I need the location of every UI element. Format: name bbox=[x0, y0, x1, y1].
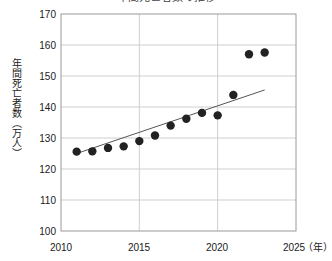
plot-border bbox=[61, 14, 296, 231]
data-point bbox=[229, 91, 237, 99]
data-point bbox=[119, 142, 127, 150]
gridlines bbox=[61, 14, 296, 231]
data-point bbox=[104, 144, 112, 152]
data-point bbox=[245, 50, 253, 58]
plot-frame bbox=[61, 14, 296, 231]
data-point bbox=[182, 115, 190, 123]
data-point bbox=[151, 131, 159, 139]
data-point bbox=[135, 137, 143, 145]
data-points bbox=[72, 48, 268, 156]
chart-container: 年間死亡者数の推移 年間死亡者数（万人） 170 160 150 140 130… bbox=[0, 0, 332, 261]
data-point bbox=[260, 48, 268, 56]
data-point bbox=[198, 109, 206, 117]
data-point bbox=[72, 147, 80, 155]
data-point bbox=[88, 147, 96, 155]
plot-area bbox=[0, 0, 332, 261]
data-point bbox=[213, 111, 221, 119]
data-point bbox=[166, 121, 174, 129]
